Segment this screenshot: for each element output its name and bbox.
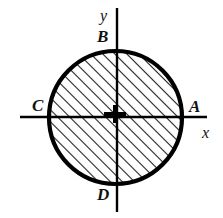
figure-canvas: B A C D x y xyxy=(0,0,223,218)
y-axis-label: y xyxy=(100,8,107,24)
point-label-d: D xyxy=(97,186,109,203)
point-label-b: B xyxy=(97,28,108,45)
point-label-a: A xyxy=(189,98,200,115)
x-axis-label: x xyxy=(202,125,209,141)
point-label-c: C xyxy=(32,97,43,114)
